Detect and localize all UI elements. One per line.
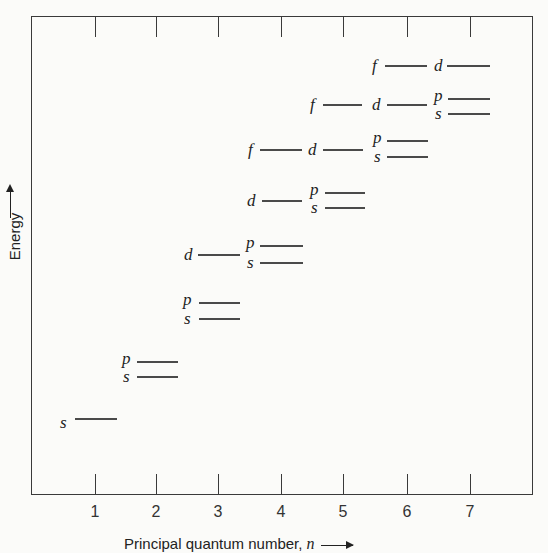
x-tick-top (218, 16, 219, 37)
energy-level-n4d (262, 200, 302, 202)
sublevel-label: s (311, 199, 318, 216)
sublevel-label: d (308, 141, 317, 158)
x-tick-top (407, 16, 408, 37)
x-tick-bottom (95, 474, 96, 495)
sublevel-label: s (374, 148, 381, 165)
sublevel-label: p (373, 129, 382, 146)
x-tick-label: 3 (208, 503, 228, 521)
x-tick-top (470, 16, 471, 37)
x-tick-label: 1 (85, 503, 105, 521)
energy-level-n6s (387, 156, 428, 158)
energy-level-n5f (323, 104, 362, 106)
x-tick-label: 2 (146, 503, 166, 521)
sublevel-label: d (434, 57, 443, 74)
sublevel-label: d (184, 246, 193, 263)
energy-level-n3d (198, 254, 240, 256)
x-tick-top (156, 16, 157, 37)
energy-level-n2s (137, 376, 178, 378)
energy-level-n4p (260, 245, 303, 247)
sublevel-label: d (372, 96, 381, 113)
sublevel-label: p (434, 87, 443, 104)
energy-level-n3s (199, 318, 240, 320)
x-tick-top (281, 16, 282, 37)
energy-level-n3p (199, 302, 240, 304)
x-tick-bottom (156, 474, 157, 495)
x-tick-top (95, 16, 96, 37)
x-tick-label: 4 (271, 503, 291, 521)
energy-level-n7p (448, 98, 490, 100)
sublevel-label: s (184, 310, 191, 327)
x-tick-bottom (343, 474, 344, 495)
sublevel-label: d (247, 192, 256, 209)
sublevel-label: f (310, 96, 315, 113)
right-arrow-icon (321, 545, 353, 546)
energy-level-n4s (260, 262, 303, 264)
energy-level-n1s (75, 418, 117, 420)
energy-level-n6d (387, 104, 427, 106)
y-axis-title: Energy (6, 207, 23, 267)
energy-level-n4f (260, 149, 302, 151)
sublevel-label: s (247, 254, 254, 271)
x-axis-title-text: Principal quantum number, (124, 535, 307, 552)
x-tick-bottom (281, 474, 282, 495)
energy-level-n7d (447, 65, 490, 67)
x-axis-variable: n (307, 535, 315, 552)
x-tick-bottom (407, 474, 408, 495)
energy-level-n5d (323, 149, 363, 151)
sublevel-label: s (123, 368, 130, 385)
sublevel-label: s (435, 105, 442, 122)
x-tick-label: 7 (460, 503, 480, 521)
sublevel-label: p (246, 234, 255, 251)
x-axis-title: Principal quantum number, n (124, 535, 353, 553)
energy-level-n5p (325, 192, 365, 194)
x-tick-top (343, 16, 344, 37)
energy-level-n6f (385, 65, 427, 67)
x-tick-bottom (218, 474, 219, 495)
energy-level-n7s (448, 113, 490, 115)
energy-level-n2p (137, 361, 178, 363)
x-tick-bottom (470, 474, 471, 495)
diagram-frame (31, 16, 533, 495)
sublevel-label: f (248, 141, 253, 158)
sublevel-label: s (60, 414, 67, 431)
sublevel-label: f (372, 57, 377, 74)
energy-level-n6p (387, 140, 428, 142)
sublevel-label: p (122, 350, 131, 367)
x-tick-label: 5 (333, 503, 353, 521)
energy-level-n5s (325, 207, 365, 209)
sublevel-label: p (183, 291, 192, 308)
x-tick-label: 6 (397, 503, 417, 521)
sublevel-label: p (310, 181, 319, 198)
